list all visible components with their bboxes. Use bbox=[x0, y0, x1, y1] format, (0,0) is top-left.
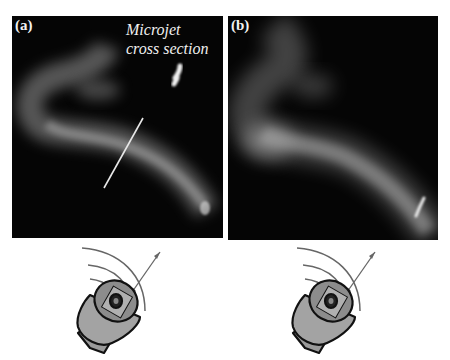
annotation-line-1: Microjet bbox=[126, 20, 209, 39]
speaker-icon bbox=[283, 245, 423, 360]
panel-b-image: (b) bbox=[228, 16, 438, 240]
panel-label-a: (a) bbox=[15, 17, 33, 34]
annotation-line-2: cross section bbox=[126, 39, 209, 58]
panel-a-image: (a) Microjet cross section bbox=[12, 16, 223, 238]
panel-label-b: (b) bbox=[231, 17, 249, 34]
smoke-jet-b bbox=[228, 16, 438, 240]
microjet-annotation: Microjet cross section bbox=[126, 20, 209, 58]
speaker-icon bbox=[60, 245, 200, 360]
